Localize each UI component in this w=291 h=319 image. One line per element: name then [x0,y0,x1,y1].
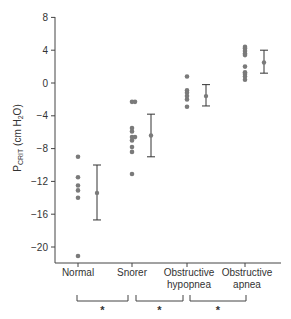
data-point [243,64,248,69]
y-tick-label: 8 [42,12,48,23]
y-axis: 840−4−8−12−16−20 [31,12,55,263]
data-point [243,77,248,82]
data-point [76,188,81,193]
error-bar [202,85,210,106]
data-point [76,175,81,180]
significance-bracket: * [136,295,183,316]
category-label: Obstructive [164,267,215,278]
y-axis-title: PCRIT (cm H2O) [12,104,24,171]
category-label: Snorer [117,267,148,278]
mean-marker [149,133,153,137]
mean-marker [204,94,208,98]
y-axis-title-text: PCRIT (cm H2O) [12,104,24,171]
y-tick-label: −20 [31,242,48,253]
data-point [185,104,190,109]
significance-bracket: * [190,295,246,316]
category-label: Normal [62,267,94,278]
data-point [76,196,81,201]
mean-marker [262,60,266,64]
mean-marker [95,191,99,195]
data-point [76,183,81,188]
y-tick-label: −8 [37,143,49,154]
data-point [243,53,248,58]
significance-asterisk: * [216,304,221,316]
significance-asterisk: * [157,304,162,316]
data-points [76,45,248,259]
significance-brackets: *** [77,295,246,316]
y-tick-label: 4 [42,45,48,56]
category-label: hypopnea [167,279,211,290]
pcrit-scatter-chart: 840−4−8−12−16−20 NormalSnorerObstructive… [0,0,291,319]
y-tick-label: 0 [42,78,48,89]
y-tick-label: −12 [31,176,48,187]
data-point [130,138,135,143]
data-point [130,129,135,134]
data-point [185,97,190,102]
y-tick-label: −16 [31,209,48,220]
data-point [133,100,138,105]
data-point [185,74,190,79]
error-bar [93,165,101,220]
data-point [130,150,135,155]
y-tick-label: −4 [37,110,49,121]
error-bars [93,50,268,220]
data-point [130,145,135,150]
data-point [76,254,81,259]
x-axis: NormalSnorerObstructivehypopneaObstructi… [55,263,281,290]
data-point [130,172,135,177]
data-point [76,155,81,160]
error-bar [147,114,155,157]
category-label: apnea [233,279,261,290]
significance-asterisk: * [100,304,105,316]
error-bar [260,50,268,73]
category-label: Obstructive [222,267,273,278]
significance-bracket: * [77,295,128,316]
